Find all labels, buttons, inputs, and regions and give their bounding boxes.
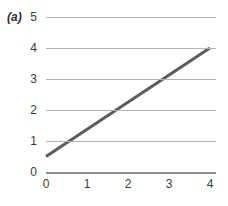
x-axis-tick-label: 4 (207, 178, 214, 190)
x-axis-line (46, 172, 216, 174)
gridline-y (46, 48, 216, 49)
figure-panel-a: (a) 01234501234 (0, 0, 228, 206)
y-axis-tick-label: 5 (30, 11, 37, 23)
x-axis-tick-label: 3 (166, 178, 173, 190)
y-axis-tick-label: 3 (30, 73, 37, 85)
data-line-svg (46, 17, 216, 172)
y-axis-tick-label: 2 (30, 104, 37, 116)
gridline-y (46, 141, 216, 142)
gridline-y (46, 110, 216, 111)
y-axis-tick-label: 0 (30, 166, 37, 178)
x-axis-tick-label: 1 (84, 178, 91, 190)
panel-label: (a) (7, 10, 22, 24)
plot-area: 01234501234 (46, 17, 216, 172)
x-axis-tick-label: 0 (43, 178, 50, 190)
y-axis-tick-label: 1 (30, 135, 37, 147)
gridline-y (46, 79, 216, 80)
y-axis-tick-label: 4 (30, 42, 37, 54)
gridline-y (46, 17, 216, 18)
x-axis-tick-label: 2 (125, 178, 132, 190)
